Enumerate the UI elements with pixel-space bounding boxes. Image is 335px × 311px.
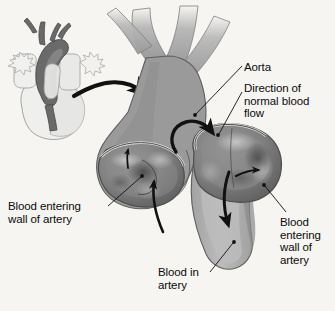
label-blood-entering-wall-right: Blood entering wall of artery [280,216,321,266]
diagram-canvas: Aorta Direction of normal blood flow Blo… [0,0,335,311]
upward-flow-tick-icon [127,150,128,168]
label-blood-in-artery: Blood in artery [158,266,199,291]
label-aorta: Aorta [244,61,271,74]
label-direction-of-normal-blood-flow: Direction of normal blood flow [244,82,309,120]
label-blood-entering-wall-left: Blood entering wall of artery [8,200,81,225]
